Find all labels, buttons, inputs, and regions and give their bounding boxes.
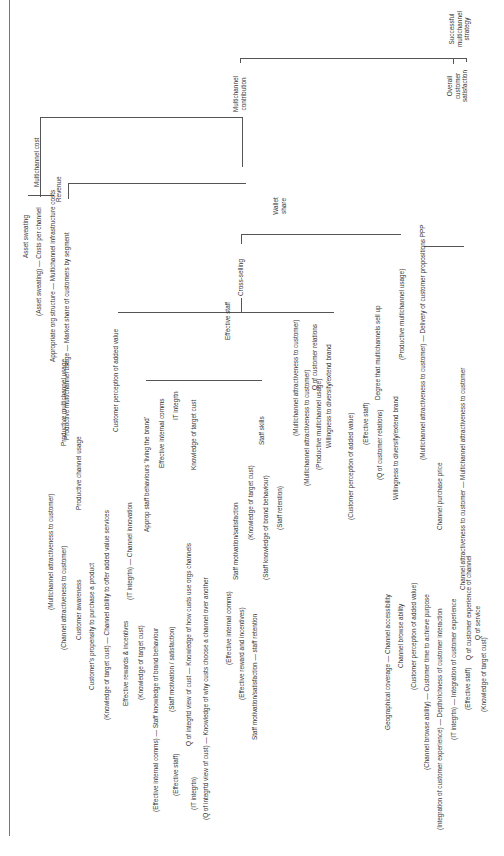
node-geo: Geographical coverage — Channel accessib… [384,594,392,730]
node-depth: (Integration of customer experience) — D… [436,608,444,830]
node-costs-per-channel: (Asset sweating) — Costs per channel [35,207,43,316]
connector [68,183,69,199]
node-it-int-2: (IT integrtn) [190,777,198,810]
node-su-productive: (Productive multichannel usage) [398,269,406,360]
node-willingness-1: Willingness to diversify/extend brand [325,344,333,448]
node-retention: Staff motivation/satisfaction — staff re… [251,614,259,740]
node-living-brand: Approp staff behaviours 'living the bran… [143,417,151,532]
connector [241,234,242,244]
node-internal-comms: Effective internal comms [158,399,166,469]
connector [240,58,241,63]
node-sat-eff-staff: (Effective staff) [464,668,472,710]
node-kn-brand: (Effective internal comms) — Staff knowl… [152,628,160,812]
node-infrastructure-costs: Appropriate org structure — Multichannel… [49,190,57,362]
node-kn-why: (Q of integrtd view of cust) — Knowledge… [202,577,210,820]
node-purchase-price: Channel purchase price [436,463,444,531]
node-customer-awareness: Customer awareness [75,580,83,640]
node-channel-innovation: (IT integrtn) — Channel innovation [126,502,134,600]
node-productive-channel-usage: Productive channel usage [75,436,83,510]
node-q-rel-a: (Multichannel attractiveness to customer… [303,370,311,487]
node-sk-target: (Knowledge of target cust) [247,465,255,540]
connector [242,117,243,167]
node-overall-satisfaction: Overall customer satisfaction [446,64,469,108]
node-sat-kn-target: (Knowledge of target cust) [480,637,488,712]
node-eff-staff-2: (Effective staff) [172,754,180,796]
node-effective-staff: Effective staff [224,302,232,340]
node-su-eff-staff: (Effective staff) [362,403,370,445]
node-su-willingness: Willingness to diversify/extend brand [392,396,400,500]
node-cross-selling: Cross-selling [237,259,245,296]
node-sat-perception: (Customer perception of added value) [410,583,418,690]
connector [424,246,464,247]
node-sk-retention: (Staff retention) [276,486,284,530]
node-rewards: Effective rewards & incentives [122,621,130,706]
node-su-perception: (Customer perception of added value) [347,413,355,520]
node-sell-up: Degree that multichannels sell up [374,306,382,401]
page-border [9,0,10,836]
node-customer-perception: Customer perception of added value [112,329,120,432]
connector [466,58,467,62]
node-su-q-rel: (Q of customer relations) [376,410,384,480]
node-it-integr: IT integrtn [172,391,180,420]
node-eff-comms: (Effective internal comms) [225,591,233,665]
node-ppp: (Multichannel attractiveness to customer… [419,225,427,460]
node-multichannel-contribution: Multichannel contribution [232,65,247,123]
node-knowledge-target: Knowledge of target cust [190,400,198,470]
node-q-service: Q of service [474,606,482,640]
node-q-experience: Q of customer experience of channel [465,556,473,660]
node-motivation-2: Staff motivation/satisfaction [232,502,240,580]
node-propensity: Customer's propensity to purchase a prod… [88,563,96,690]
node-browse: Channel browse ability [397,604,405,668]
node-multichannel-cost: Multichannel cost [33,138,41,187]
node-staff-skills: Staff skills [258,416,266,445]
node-eff-reward: (Effective reward and incentives) [238,607,246,700]
node-motivation-1: (Staff motivation / satisfaction) [168,627,176,712]
node-wallet-share: Wallet share [272,194,287,218]
connector [240,58,466,59]
connector [241,234,401,235]
node-asset-sweating: Asset sweating [22,215,30,258]
node-mc-attr-1: (Multichannel attractiveness to customer… [47,494,55,611]
node-sk-brand: (Staff knowledge of brand behaviour) [262,475,270,580]
connector [40,117,242,118]
node-kn-target-1: (Knowledge of target cust) [137,625,145,700]
node-productive-usage: Productive multichannel usage [60,359,68,446]
node-time: (Channel browse ability) — Customer time… [423,594,431,770]
connector [68,183,246,184]
node-q-rel-b: (Productive multichannel usage) [315,379,323,470]
node-mc-attr-2: (Multichannel attractiveness to customer… [292,320,300,437]
node-channel-attr: (Channel attractiveness to customer) [60,546,68,650]
connector [146,380,262,381]
node-kn-orgs: Q of integrtd view of cust — Knowledge o… [185,543,193,746]
node-channel-ability: (Knowledge of target cust) — Channel abi… [103,510,111,720]
node-integration: (IT integrtn) — Integration of customer … [450,599,458,740]
connector [241,298,242,312]
node-root: Successful multichannel strategy [448,0,471,58]
node-revenue: Revenue [55,176,63,202]
